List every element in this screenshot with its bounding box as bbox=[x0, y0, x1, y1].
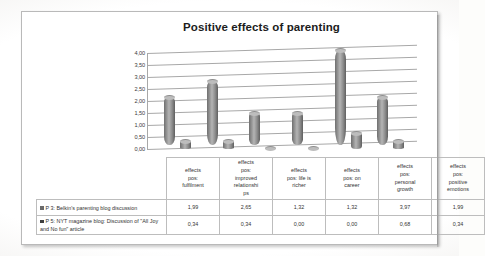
legend-label: P 5: NYT magazine blog: Discussion of "A… bbox=[40, 218, 158, 232]
legend-entry: P 5: NYT magazine blog: Discussion of "A… bbox=[37, 216, 167, 235]
value-cell: 0,00 bbox=[326, 216, 379, 235]
y-axis-tick-label: 4,00 bbox=[135, 50, 146, 56]
bar-group bbox=[289, 45, 332, 153]
value-cell: 3,97 bbox=[379, 200, 432, 216]
value-cell: 0,00 bbox=[273, 216, 326, 235]
legend-entry: P 3: Belkin's parenting blog discussion bbox=[37, 200, 167, 216]
category-header-cell: effectspos:improvedrelationships bbox=[220, 158, 273, 200]
value-cell: 1,99 bbox=[167, 200, 220, 216]
y-axis-tick-label: 1,00 bbox=[135, 122, 146, 128]
y-axis-tick-label: 0,50 bbox=[135, 134, 146, 140]
value-cell: 0,68 bbox=[379, 216, 432, 235]
y-axis-tick-label: 3,00 bbox=[135, 74, 146, 80]
bar-group bbox=[374, 45, 417, 153]
value-cell: 0,34 bbox=[432, 216, 485, 235]
table-corner-cell bbox=[37, 158, 167, 200]
category-header-cell: effectspos:fulfilment bbox=[167, 158, 220, 200]
legend-swatch-icon bbox=[40, 220, 44, 224]
bar-series1 bbox=[164, 97, 175, 145]
bar-series2 bbox=[223, 141, 234, 149]
chart-title: Positive effects of parenting bbox=[22, 21, 437, 33]
value-cell: 0,34 bbox=[167, 216, 220, 235]
table-row: P 3: Belkin's parenting blog discussion1… bbox=[37, 200, 485, 216]
bar-series2 bbox=[393, 141, 404, 149]
bar-group bbox=[161, 45, 204, 153]
axis-riser bbox=[147, 53, 148, 149]
value-cell: 0,34 bbox=[220, 216, 273, 235]
y-axis-tick-labels: 0,000,501,001,502,002,503,003,504,00 bbox=[114, 45, 145, 153]
value-cell: 1,99 bbox=[432, 200, 485, 216]
data-table: effectspos:fulfilmenteffectspos:improved… bbox=[36, 157, 430, 235]
y-axis-tick-label: 2,50 bbox=[135, 86, 146, 92]
bar-group bbox=[332, 45, 375, 153]
chart-card: Positive effects of parenting 0,000,501,… bbox=[21, 11, 438, 245]
value-cell: 1,32 bbox=[326, 200, 379, 216]
plot-area bbox=[147, 45, 417, 153]
y-axis-tick-label: 2,00 bbox=[135, 98, 146, 104]
bar-series-container bbox=[161, 45, 417, 153]
category-header-cell: effectspos: oncareer bbox=[326, 158, 379, 200]
table-row: effectspos:fulfilmenteffectspos:improved… bbox=[37, 158, 485, 200]
value-cell: 2,65 bbox=[220, 200, 273, 216]
legend-label: P 3: Belkin's parenting blog discussion bbox=[46, 205, 138, 211]
table-row: P 5: NYT magazine blog: Discussion of "A… bbox=[37, 216, 485, 235]
y-axis-tick-label: 0,00 bbox=[135, 146, 146, 152]
category-header-cell: effectspos:positiveemotions bbox=[432, 158, 485, 200]
bar-series2 bbox=[308, 148, 319, 150]
bar-group bbox=[246, 45, 289, 153]
legend-swatch-icon bbox=[40, 206, 44, 210]
y-axis-tick-label: 1,50 bbox=[135, 110, 146, 116]
bar-group bbox=[204, 45, 247, 153]
category-header-cell: effectspos:personalgrowth bbox=[379, 158, 432, 200]
bar-series1 bbox=[377, 97, 388, 145]
bar-series2 bbox=[351, 133, 362, 149]
bar-series2 bbox=[265, 148, 276, 150]
bar-series1 bbox=[335, 50, 346, 145]
bar-series1 bbox=[249, 113, 260, 145]
bar-series1 bbox=[207, 81, 218, 145]
category-header-cell: effectspos: life isricher bbox=[273, 158, 326, 200]
y-axis-tick-label: 3,50 bbox=[135, 62, 146, 68]
bar-series1 bbox=[292, 113, 303, 145]
bar-series2 bbox=[180, 141, 191, 149]
value-cell: 1,32 bbox=[273, 200, 326, 216]
